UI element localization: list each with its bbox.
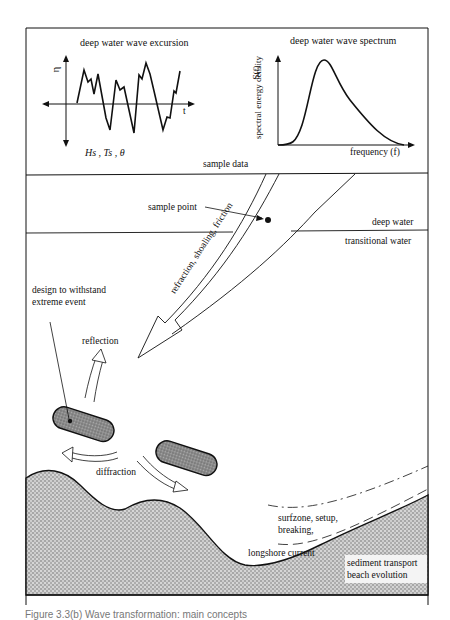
surfzone-label-line1: surfzone, setup,: [278, 513, 338, 524]
reflection-arrow: [85, 349, 106, 402]
beach-evolution-label: beach evolution: [347, 570, 407, 581]
frequency-axis-label: frequency (f): [350, 147, 400, 158]
wave-spectrum-plot: [275, 55, 415, 148]
surfzone-label-line2: breaking,: [278, 525, 314, 536]
design-label-line2: extreme event: [32, 297, 86, 308]
sediment-transport-label: sediment transport: [347, 558, 417, 569]
reflection-label: reflection: [82, 336, 118, 347]
design-label-line1: design to withstand: [32, 285, 106, 296]
breakwater-right: [153, 438, 220, 478]
transitional-water-label: transitional water: [345, 236, 411, 247]
time-axis-label: t: [183, 106, 186, 117]
deep-water-label: deep water: [372, 217, 413, 228]
wave-excursion-title: deep water wave excursion: [80, 37, 189, 48]
s-f-label: S(f): [251, 66, 262, 80]
diffraction-label: diffraction: [96, 467, 136, 478]
spectral-density-label: spectral energy density: [253, 48, 264, 148]
wave-spectrum-title: deep water wave spectrum: [290, 35, 396, 46]
sample-data-label: sample data: [203, 159, 248, 170]
wave-excursion-plot: [42, 55, 195, 147]
wave-parameters: Hs , Ts , θ: [85, 147, 125, 158]
eta-axis-label: η: [50, 67, 61, 73]
sample-point-label: sample point: [148, 202, 197, 213]
longshore-current-label: longshore current: [248, 548, 315, 559]
figure-caption: Figure 3.3(b) Wave transformation: main …: [25, 609, 247, 620]
